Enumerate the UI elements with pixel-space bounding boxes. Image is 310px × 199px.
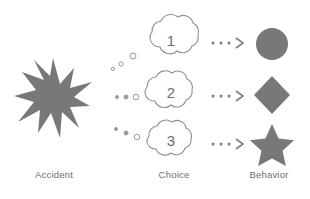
filled-circle-icon — [256, 28, 288, 60]
column-label-accident: Accident — [0, 169, 108, 180]
dotted-arrow-icon — [212, 38, 244, 48]
thought-bubble-trail-icon — [111, 53, 136, 71]
dotted-arrow-icon — [212, 139, 244, 149]
thought-bubble-trail-icon — [116, 94, 139, 100]
column-label-behavior: Behavior — [228, 169, 310, 180]
choice-number-2: 2 — [161, 84, 181, 101]
choice-number-1: 1 — [161, 32, 181, 49]
column-label-choice: Choice — [128, 169, 220, 180]
filled-diamond-icon — [254, 76, 290, 114]
diagram-canvas: 1 2 3 Accident Choice Behavior — [0, 0, 310, 199]
thought-bubble-trail-icon — [115, 128, 140, 140]
starburst-explosion-icon — [14, 58, 92, 138]
filled-star-icon — [250, 124, 294, 166]
choice-number-3: 3 — [161, 132, 181, 149]
dotted-arrow-icon — [212, 91, 244, 101]
